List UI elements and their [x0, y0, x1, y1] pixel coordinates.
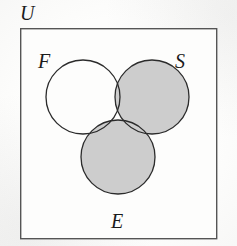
set-label-f: F [38, 51, 51, 71]
set-label-s: S [175, 51, 186, 71]
set-label-e: E [111, 211, 124, 231]
venn-diagram-figure: U F S E [0, 0, 237, 246]
universal-set-label: U [20, 3, 35, 23]
